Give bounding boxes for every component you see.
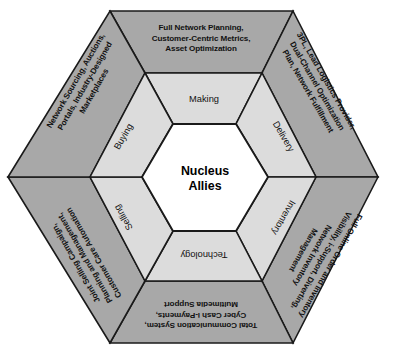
core-label-line2: Allies: [188, 179, 221, 193]
core-label-line1: Nucleus: [181, 164, 229, 178]
outer-label-planning-line3: Asset Optimization: [165, 44, 237, 53]
outer-label-communication-line3: Multimedia Support: [164, 300, 238, 309]
outer-label-planning-line2: Customer-Centric Metrics,: [152, 34, 251, 43]
middle-label-technology-text: Technology: [180, 250, 227, 260]
outer-label-planning-line1: Full Network Planning,: [158, 23, 243, 32]
middle-label-making: Making: [189, 94, 219, 104]
middle-label-technology: Technology: [180, 250, 227, 260]
outer-label-communication-line2: Cyber Cash i-Payments,: [156, 311, 246, 320]
outer-label-communication-line1: Total Communication System,: [145, 321, 258, 330]
middle-label-making-text: Making: [189, 94, 219, 104]
diagram-canvas: Full Network Planning, Customer-Centric …: [0, 0, 400, 353]
outer-label-planning: Full Network Planning, Customer-Centric …: [152, 23, 251, 53]
hexagon-diagram: Full Network Planning, Customer-Centric …: [0, 0, 400, 353]
